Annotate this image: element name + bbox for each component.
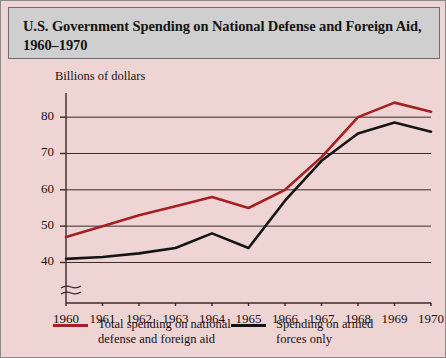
legend-color-swatch <box>231 324 266 327</box>
y-tick-label: 60 <box>24 181 54 197</box>
legend-label-line-2: forces only <box>276 332 373 347</box>
legend-label-line-1: Total spending on national <box>98 317 231 332</box>
axis-break-icon <box>61 292 81 294</box>
data-series-line <box>66 103 431 237</box>
y-tick-label: 70 <box>24 144 54 160</box>
y-tick-label: 80 <box>24 108 54 124</box>
chart-title-line-2: 1960–1970 <box>23 36 439 55</box>
plot-region: Billions of dollars 40506070801960196119… <box>1 59 446 306</box>
legend-label-line-1: Spending on armed <box>276 317 373 332</box>
legend-label-line-2: defense and foreign aid <box>98 332 231 347</box>
y-tick-label: 50 <box>24 217 54 233</box>
y-tick-label: 40 <box>24 253 54 269</box>
data-series-line <box>66 123 431 259</box>
chart-title-line-1: U.S. Government Spending on National Def… <box>23 17 439 36</box>
chart-legend: Total spending on nationaldefense and fo… <box>1 309 446 357</box>
chart-title-band: U.S. Government Spending on National Def… <box>8 7 440 59</box>
chart-figure: U.S. Government Spending on National Def… <box>0 0 446 358</box>
axis-break-icon <box>61 286 81 288</box>
legend-entry-label: Total spending on nationaldefense and fo… <box>98 317 231 347</box>
line-chart-svg <box>1 59 446 306</box>
legend-color-swatch <box>53 324 88 327</box>
legend-entry-label: Spending on armedforces only <box>276 317 373 347</box>
